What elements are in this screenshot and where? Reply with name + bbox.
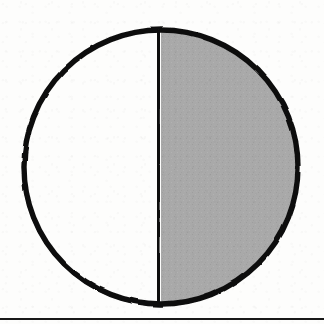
vertical-diameter-line-overstroke [158, 33, 159, 302]
bottom-horizontal-rule [0, 318, 324, 320]
scanned-page [0, 0, 324, 324]
half-shaded-circle-figure [0, 0, 324, 324]
